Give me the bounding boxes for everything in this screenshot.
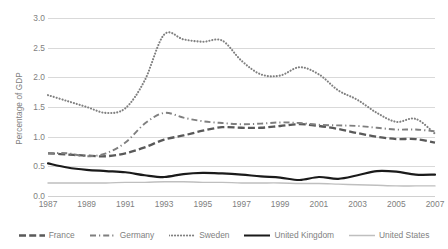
legend-item[interactable]: United States [349,231,429,240]
y-axis-tick: 2.5 [33,43,45,51]
legend-label: France [49,231,75,239]
legend-swatch-icon [90,231,116,240]
legend-swatch-icon [19,231,45,240]
legend-label: Sweden [199,231,229,239]
legend-label: Germany [120,231,154,239]
gdp-line-chart: Percentage of GDP 0.00.51.01.52.02.53.0 … [0,0,448,249]
legend-item[interactable]: France [19,231,75,240]
x-axis-tick: 2007 [426,200,445,208]
legend-swatch-icon [244,231,270,240]
y-axis-tick: 1.0 [33,132,45,140]
legend-label: United Kingdom [274,231,334,239]
series-line [48,124,435,156]
y-axis-tick: 1.5 [33,103,45,111]
y-axis-tick: 2.0 [33,73,45,81]
legend-swatch-icon [169,231,195,240]
series-line [48,32,435,133]
x-axis-tick: 1999 [271,200,290,208]
x-axis-tick: 1991 [116,200,135,208]
x-axis-tick: 2005 [387,200,406,208]
y-axis-tick-labels: 0.00.51.01.52.02.53.0 [20,0,45,249]
x-axis-tick: 1997 [232,200,251,208]
series-line [48,163,435,180]
legend-item[interactable]: Germany [90,231,154,240]
legend-item[interactable]: Sweden [169,231,229,240]
legend-swatch-icon [349,231,375,240]
plot-area [48,18,435,196]
legend-label: United States [379,231,429,239]
legend-item[interactable]: United Kingdom [244,231,334,240]
x-axis-tick: 1993 [155,200,174,208]
chart-legend: FranceGermanySwedenUnited KingdomUnited … [0,226,448,244]
x-axis-tick-labels: 1987198919911993199519971999200120032005… [48,200,435,216]
x-axis-tick: 1987 [39,200,58,208]
x-axis-tick: 2003 [348,200,367,208]
y-axis-tick: 3.0 [33,14,45,22]
y-axis-tick: 0.5 [33,162,45,170]
series-line [48,113,435,156]
x-axis-tick: 1995 [193,200,212,208]
series-lines [48,18,435,196]
gridline [48,196,435,197]
x-axis-tick: 1989 [77,200,96,208]
series-line [48,182,435,186]
x-axis-tick: 2001 [310,200,329,208]
